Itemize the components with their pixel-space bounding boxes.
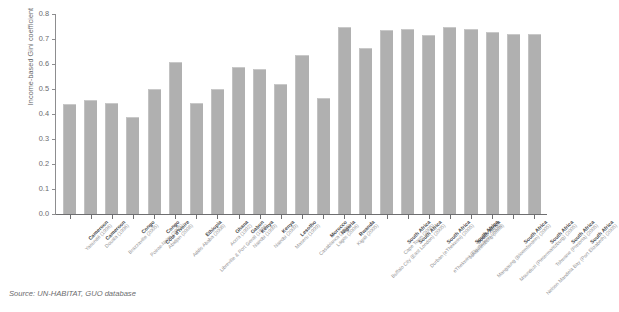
y-axis-tick — [52, 139, 56, 140]
x-axis-tick — [408, 215, 409, 219]
bar — [274, 84, 287, 214]
x-axis-category-label: South AfricaBuffalo City (East London) (… — [387, 220, 447, 280]
bar — [232, 67, 245, 215]
x-axis-tick — [133, 215, 134, 219]
category-city-name: Buffalo City (East London) (2005) — [391, 223, 447, 279]
bar — [148, 89, 161, 214]
bar — [464, 29, 477, 214]
category-city-name: Casablanca (2006) — [318, 223, 352, 257]
x-axis-category-label: KenyaNairobi (1999) — [248, 220, 278, 250]
x-axis-tick — [281, 215, 282, 219]
category-country-name: Morocco — [315, 220, 349, 254]
category-country-name: Cameroon — [100, 220, 126, 246]
y-axis-tick-label: 0.0 — [22, 210, 49, 217]
category-country-name: Kenya — [248, 220, 274, 246]
y-axis-tick-label: 0.3 — [22, 135, 49, 142]
category-city-name: Abidjan (2008) — [168, 223, 195, 250]
category-country-name: South Africa — [515, 220, 574, 279]
x-axis-category-label: CongoPointe-Noire (2005) — [146, 220, 184, 258]
category-city-name: Lagos (2006) — [336, 223, 361, 248]
category-country-name: South Africa — [387, 220, 443, 276]
x-axis-tick — [513, 215, 514, 219]
bar — [190, 103, 203, 214]
x-axis-category-label: South AfricaJohannesburg (2005) — [464, 220, 505, 261]
category-country-name: South Africa — [399, 220, 432, 253]
bar — [401, 29, 414, 214]
x-axis-category-label: EthiopiaAddis Ababa (2008) — [188, 220, 227, 259]
y-axis-tick — [52, 214, 56, 215]
y-axis-tick-label: 0.2 — [22, 160, 49, 167]
bar — [317, 98, 330, 214]
category-city-name: Tshwane (Pretoria) (2005) — [555, 223, 600, 268]
x-axis-tick — [471, 215, 472, 219]
x-axis-category-label: South AfricaCape Town (2005) — [399, 220, 435, 256]
x-axis-tick — [387, 215, 388, 219]
bar — [443, 27, 456, 215]
category-city-name: Msunduzi (Pietermaritzburg) (2005) — [519, 223, 578, 282]
category-city-name: Douala (1996) — [104, 223, 130, 249]
y-axis-tick — [52, 39, 56, 40]
x-axis-category-label: South AfricaTshwane (Pretoria) (2005) — [552, 220, 600, 268]
x-axis-line — [55, 214, 547, 215]
category-city-name: Johannesburg (2005) — [468, 223, 505, 260]
category-country-name: Ghana — [226, 220, 250, 244]
x-axis-category-label: South AfricaNelson Mandela Bay (Port Eli… — [542, 220, 619, 297]
y-axis-tick — [52, 64, 56, 65]
category-city-name: Mangaung (Bloemfontein) (2005) — [497, 223, 553, 279]
x-axis-category-label: South AfricaMangaung (Bloemfontein) (200… — [493, 220, 552, 279]
y-axis-tick-label: 0.7 — [22, 35, 49, 42]
category-country-name: South Africa — [552, 220, 597, 265]
x-axis-category-label: CameroonDouala (1996) — [100, 220, 130, 250]
category-country-name: Kenya — [269, 220, 295, 246]
category-country-name: Côte d'Ivoire — [164, 220, 191, 247]
category-city-name: eThekwini (Ekurhuleni) (2005) — [452, 223, 503, 274]
x-axis-category-label: GabonLibreville & Port Gentil (1996) — [216, 220, 270, 274]
category-country-name: Lesotho — [291, 220, 318, 247]
bar — [63, 104, 76, 214]
y-axis-tick-label: 0.1 — [22, 185, 49, 192]
y-axis-tick — [52, 14, 56, 15]
y-axis-tick — [52, 89, 56, 90]
x-axis-category-label: LesothoMaseru (1999) — [291, 220, 322, 251]
category-country-name: Gabon — [216, 220, 266, 270]
x-axis-category-label: South AfricaMsunduzi (Pietermaritzburg) … — [515, 220, 578, 283]
bar — [422, 35, 435, 214]
x-axis-tick — [302, 215, 303, 219]
x-axis-tick — [344, 215, 345, 219]
bar — [211, 89, 224, 214]
x-axis-category-label: CongoBrazzaville (2005) — [124, 220, 160, 256]
category-city-name: Nelson Mandela Bay (Port Elizabeth) (200… — [546, 223, 619, 296]
x-axis-tick — [429, 215, 430, 219]
bar — [359, 48, 372, 214]
category-country-name: Nigeria — [332, 220, 357, 245]
category-city-name: Cape Town (2005) — [403, 223, 436, 256]
category-city-name: Durban (eThekwini) (2005) — [429, 223, 475, 269]
category-city-name: Nairobi (1999) — [252, 223, 278, 249]
x-axis-category-label: CameroonYaoundé (1996) — [80, 220, 113, 253]
category-country-name: South Africa — [425, 220, 471, 266]
x-axis-tick — [534, 215, 535, 219]
x-axis-category-label: South AfricaeThekwini (Ekurhuleni) (2005… — [449, 220, 504, 275]
y-axis-tick — [52, 114, 56, 115]
bar — [380, 30, 393, 214]
category-city-name: Pointe-Noire (2005) — [150, 223, 185, 258]
x-axis-tick — [175, 215, 176, 219]
x-axis-tick — [112, 215, 113, 219]
bar — [528, 34, 541, 214]
bar — [295, 55, 308, 214]
x-axis-tick — [217, 215, 218, 219]
x-axis-tick — [154, 215, 155, 219]
y-axis-tick-label: 0.5 — [22, 85, 49, 92]
bar — [486, 32, 499, 215]
y-axis-tick-label: 0.6 — [22, 60, 49, 67]
category-city-name: Nairobi (2009) — [273, 223, 299, 249]
category-city-name: Maseru (1999) — [294, 223, 321, 250]
bar — [507, 34, 520, 214]
bar — [84, 100, 97, 214]
bar — [253, 69, 266, 214]
x-axis-category-label: NigeriaLagos (2006) — [332, 220, 360, 248]
y-axis-tick-label: 0.4 — [22, 110, 49, 117]
bar — [105, 103, 118, 214]
bar — [338, 27, 351, 215]
x-axis-tick — [70, 215, 71, 219]
